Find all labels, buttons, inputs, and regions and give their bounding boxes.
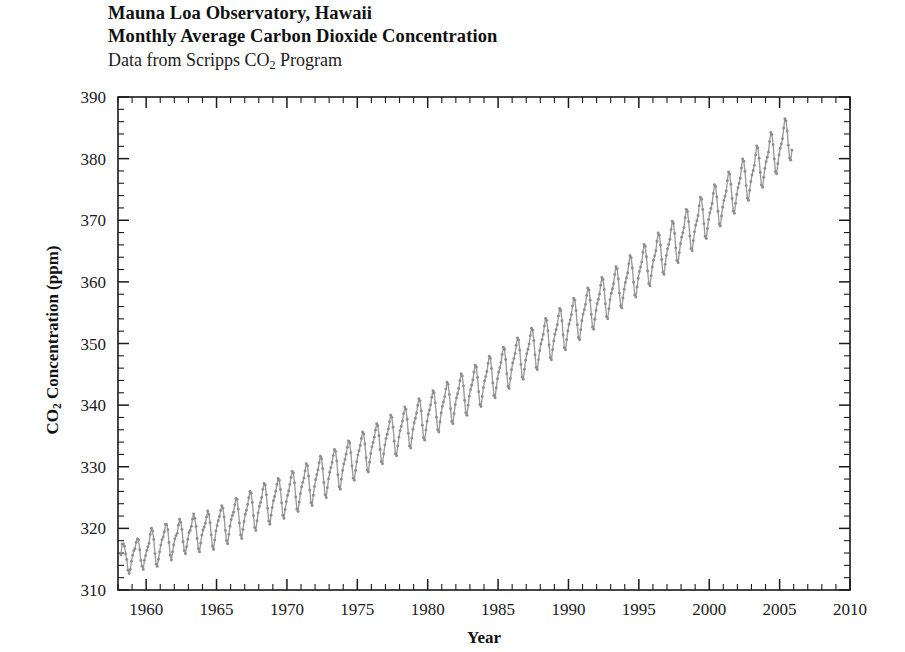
x-tick-label: 1995	[622, 600, 656, 619]
subtitle-suffix: Program	[275, 50, 342, 70]
y-axis-ticks	[118, 97, 850, 590]
plot-canvas: 310320330340350360370380390 196019651970…	[0, 0, 905, 652]
y-axis-title-subscript: 2	[51, 403, 63, 409]
plot-frame-border	[118, 97, 850, 590]
y-tick-label: 380	[81, 150, 107, 169]
y-tick-label: 340	[81, 396, 107, 415]
x-axis-ticks	[118, 97, 850, 590]
y-tick-label: 310	[81, 581, 107, 600]
subtitle-subscript: 2	[269, 58, 275, 72]
data-series-group	[119, 117, 793, 575]
chart-title-block: Mauna Loa Observatory, Hawaii Monthly Av…	[108, 2, 808, 74]
x-tick-label: 2000	[692, 600, 726, 619]
y-axis-tick-labels: 310320330340350360370380390	[81, 88, 107, 600]
data-markers-series-0	[119, 117, 793, 575]
y-tick-label: 370	[81, 211, 107, 230]
x-tick-label: 1985	[481, 600, 515, 619]
y-axis-title: CO2 Concentration (ppm)	[43, 190, 63, 490]
x-tick-label: 2010	[833, 600, 867, 619]
y-tick-label: 320	[81, 519, 107, 538]
chart-title-line-2: Monthly Average Carbon Dioxide Concentra…	[108, 25, 808, 48]
chart-title-line-1: Mauna Loa Observatory, Hawaii	[108, 2, 808, 25]
y-tick-label: 390	[81, 88, 107, 107]
x-tick-label: 1975	[340, 600, 374, 619]
y-tick-label: 350	[81, 335, 107, 354]
y-tick-label: 330	[81, 458, 107, 477]
x-tick-label: 1960	[129, 600, 163, 619]
x-axis-title: Year	[118, 628, 850, 648]
co2-chart-figure: Mauna Loa Observatory, Hawaii Monthly Av…	[0, 0, 905, 652]
subtitle-prefix: Data from Scripps CO	[108, 50, 269, 70]
y-tick-label: 360	[81, 273, 107, 292]
chart-subtitle: Data from Scripps CO2 Program	[108, 48, 808, 74]
x-tick-label: 2005	[763, 600, 797, 619]
x-axis-tick-labels: 1960196519701975198019851990199520002005…	[129, 600, 867, 619]
y-axis-title-suffix: Concentration (ppm)	[43, 246, 62, 404]
y-axis-title-prefix: CO	[43, 409, 62, 435]
x-tick-label: 1990	[551, 600, 585, 619]
x-tick-label: 1970	[270, 600, 304, 619]
x-tick-label: 1965	[200, 600, 234, 619]
x-tick-label: 1980	[411, 600, 445, 619]
